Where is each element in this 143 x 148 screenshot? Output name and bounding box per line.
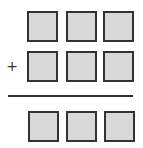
addend1-ones-box[interactable] — [103, 11, 134, 42]
addend1-tens-box[interactable] — [66, 11, 97, 42]
sum-ones-box[interactable] — [104, 111, 135, 142]
sum-tens-box[interactable] — [66, 111, 97, 142]
sum-line — [8, 95, 133, 97]
addend1-hundreds-box[interactable] — [27, 11, 58, 42]
plus-sign: + — [6, 58, 18, 74]
addend2-ones-box[interactable] — [103, 51, 134, 82]
addend2-hundreds-box[interactable] — [27, 51, 58, 82]
addend2-tens-box[interactable] — [66, 51, 97, 82]
sum-hundreds-box[interactable] — [28, 111, 59, 142]
